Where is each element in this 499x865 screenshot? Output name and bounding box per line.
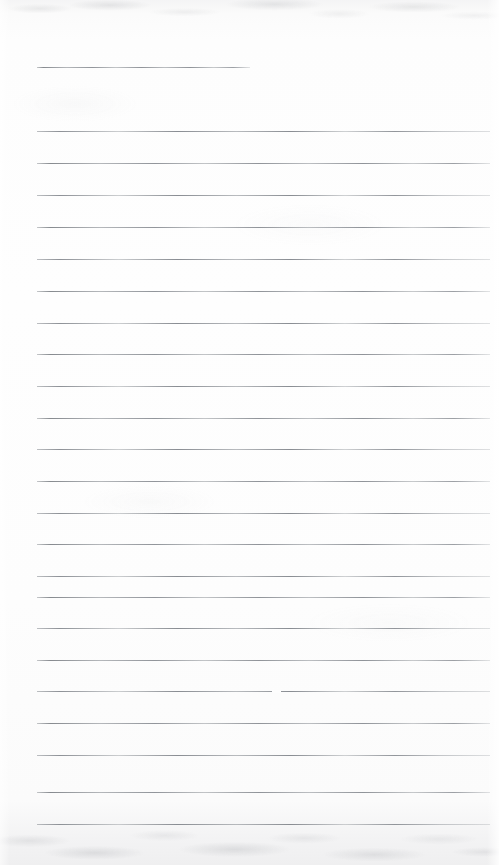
ruled-line-ink xyxy=(37,386,490,387)
ruled-line xyxy=(37,660,490,661)
ruled-line xyxy=(37,597,490,598)
ruled-line-ink xyxy=(37,195,490,196)
ruled-line-ink xyxy=(37,67,250,68)
ruled-line xyxy=(37,259,490,260)
ruled-line-ink xyxy=(37,131,490,132)
ruled-line-ink xyxy=(37,544,490,545)
ruled-line xyxy=(37,418,490,419)
scanned-page xyxy=(0,0,499,865)
ruled-line xyxy=(37,354,490,355)
ruled-line-ink xyxy=(37,660,490,661)
ruled-line-ink xyxy=(37,691,490,692)
ruled-line-ink xyxy=(37,291,490,292)
ruled-line-ink xyxy=(37,755,490,756)
ruled-line xyxy=(37,513,490,514)
ruled-line-ink xyxy=(37,163,490,164)
ruled-line-ink xyxy=(37,481,490,482)
ruled-line xyxy=(37,449,490,450)
ruled-line-ink xyxy=(37,227,490,228)
ruled-line xyxy=(37,824,490,825)
ruled-line-ink xyxy=(37,323,490,324)
ruled-line xyxy=(37,723,490,724)
ruled-line xyxy=(37,291,490,292)
ruled-line-ink xyxy=(37,513,490,514)
ruled-line xyxy=(37,323,490,324)
ruled-line-ink xyxy=(37,597,490,598)
ruled-lines-layer xyxy=(0,0,499,865)
ruled-line xyxy=(37,195,490,196)
ruled-line xyxy=(37,227,490,228)
ruled-line xyxy=(37,691,490,692)
ruled-line xyxy=(37,544,490,545)
ruled-line-ink xyxy=(37,824,490,825)
ruled-line xyxy=(37,163,490,164)
ruled-line-ink xyxy=(37,628,490,629)
ruled-line xyxy=(37,792,490,793)
ruled-line xyxy=(37,386,490,387)
ruled-line xyxy=(37,131,490,132)
ruled-line-ink xyxy=(37,576,490,577)
ruled-line xyxy=(37,628,490,629)
ruled-line-ink xyxy=(37,723,490,724)
ruled-line-ink xyxy=(37,259,490,260)
ruled-line-ink xyxy=(37,792,490,793)
ruled-line xyxy=(37,755,490,756)
ruled-line-ink xyxy=(37,449,490,450)
ruled-line xyxy=(37,481,490,482)
ruled-line-dropout xyxy=(272,690,281,693)
ruled-line-partial xyxy=(37,67,250,68)
ruled-line-ink xyxy=(37,418,490,419)
ruled-line-ink xyxy=(37,354,490,355)
ruled-line xyxy=(37,576,490,577)
